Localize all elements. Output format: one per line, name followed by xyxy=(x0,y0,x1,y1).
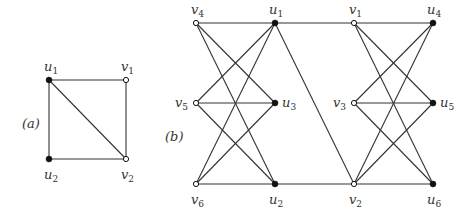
node-label-v1: v1 xyxy=(121,59,134,76)
node-label-v3: v3 xyxy=(333,95,346,112)
node-label-v2: v2 xyxy=(349,192,362,209)
node-label-u2: u2 xyxy=(269,192,283,209)
node-label-v5: v5 xyxy=(175,95,188,112)
panel-a-graph: (a) u1v1u2v2 xyxy=(22,59,134,184)
node-label-v6: v6 xyxy=(191,192,204,209)
node-u6 xyxy=(430,181,436,187)
panel-b-edges xyxy=(196,23,433,184)
panel-a-edges xyxy=(49,80,126,159)
node-label-u1: u1 xyxy=(44,59,58,76)
node-v1 xyxy=(351,20,356,25)
node-label-u5: u5 xyxy=(440,95,454,112)
node-label-u2: u2 xyxy=(44,167,58,184)
node-v6 xyxy=(193,181,198,186)
node-u1 xyxy=(272,20,278,26)
panel-a-caption: (a) xyxy=(22,116,40,131)
node-v4 xyxy=(193,20,198,25)
node-u2 xyxy=(46,156,52,162)
node-label-u3: u3 xyxy=(282,95,296,112)
node-v2 xyxy=(351,181,356,186)
node-label-v2: v2 xyxy=(121,167,134,184)
node-u3 xyxy=(272,100,278,106)
panel-b-caption: (b) xyxy=(165,129,183,144)
panel-b-nodes: v4u1v1u4v5u3v3u5v6u2v2u6 xyxy=(175,2,454,209)
edge-u1-v2 xyxy=(49,80,126,159)
node-label-u4: u4 xyxy=(427,2,441,19)
node-label-v1: v1 xyxy=(349,2,362,19)
node-u4 xyxy=(430,20,436,26)
node-u5 xyxy=(430,100,436,106)
node-label-u6: u6 xyxy=(427,192,441,209)
node-v5 xyxy=(193,100,198,105)
node-v1 xyxy=(123,77,128,82)
node-v3 xyxy=(351,100,356,105)
node-label-u1: u1 xyxy=(269,2,283,19)
node-u1 xyxy=(46,77,52,83)
node-label-v4: v4 xyxy=(191,2,204,19)
node-v2 xyxy=(123,156,128,161)
node-u2 xyxy=(272,181,278,187)
panel-b-graph: (b) v4u1v1u4v5u3v3u5v6u2v2u6 xyxy=(165,2,454,209)
graph-figure: (a) u1v1u2v2 (b) v4u1v1u4v5u3v3u5v6u2v2u… xyxy=(0,0,471,210)
